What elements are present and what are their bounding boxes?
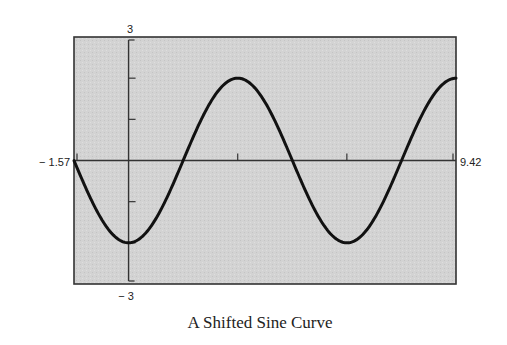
x-min-label: − 1.57 (39, 156, 70, 168)
shifted-sine-chart: 3 − 3 − 1.57 9.42 A Shifted Sine Curve (0, 0, 507, 345)
chart-title: A Shifted Sine Curve (188, 313, 333, 332)
x-max-label: 9.42 (460, 156, 481, 168)
y-min-label: − 3 (118, 290, 134, 302)
y-max-label: 3 (127, 23, 133, 35)
